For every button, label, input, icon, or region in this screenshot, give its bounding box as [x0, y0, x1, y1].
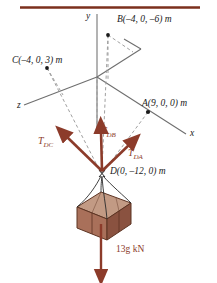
dash-b-to-corner [108, 35, 133, 52]
b-frame-edge [124, 39, 141, 49]
weight-label: 13g kN [116, 245, 144, 255]
coordinate-axes [24, 14, 186, 134]
force-label-tdc-sub: DC [44, 141, 54, 149]
point-a-dot [146, 110, 150, 114]
statics-free-body-diagram-figure: y x z B(–4, 0, –6) m C(–4, 0, 3) m A(9, … [0, 0, 217, 283]
y-axis-label: y [86, 12, 90, 22]
z-axis-label: z [17, 101, 21, 111]
axis-z [24, 77, 97, 105]
force-label-tdb-sub: DB [107, 131, 116, 139]
diagram-canvas [0, 0, 217, 283]
point-d-label: D(0, –12, 0) m [110, 167, 166, 177]
axis-neg-z-leg [97, 49, 141, 77]
x-axis-label: x [190, 129, 194, 139]
point-c-dot [45, 66, 49, 70]
point-b-dot [106, 33, 110, 37]
force-label-tda: TDA [128, 148, 143, 161]
point-a-label: A(9, 0, 0) m [142, 99, 187, 109]
rope-back [101, 176, 102, 192]
dash-b-to-d [102, 35, 108, 170]
point-b-label: B(–4, 0, –6) m [117, 15, 172, 25]
force-label-tdb: TDB [101, 126, 116, 139]
force-vector-tdc [66, 136, 102, 171]
force-label-tda-sub: DA [134, 153, 143, 161]
point-c-label: C(–4, 0, 3) m [12, 56, 62, 66]
dash-c-to-d [47, 68, 100, 171]
force-label-tdc: TDC [38, 136, 53, 149]
force-vectors [66, 131, 130, 171]
